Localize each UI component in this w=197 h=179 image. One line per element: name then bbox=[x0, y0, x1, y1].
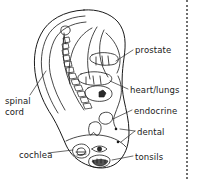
triangular-fossa bbox=[88, 27, 97, 79]
label-dental: dental bbox=[137, 127, 165, 137]
tragus-contour bbox=[114, 76, 122, 128]
dental-dot-upper bbox=[115, 128, 118, 131]
concha-bowl bbox=[85, 86, 112, 102]
tonsils-mouth-marker bbox=[89, 155, 110, 168]
prostate-zone-divider bbox=[96, 56, 109, 65]
dental-dot-lower bbox=[117, 141, 120, 144]
label-spinal-cord-line2: cord bbox=[5, 107, 24, 117]
leader-line-dental bbox=[120, 129, 135, 142]
heart-lungs-region-shape bbox=[78, 72, 112, 86]
label-tonsils: tonsils bbox=[135, 152, 163, 162]
helix-inner-rim bbox=[41, 16, 85, 113]
ear-reflexology-diagram: spinal cord cochlea prostate heart/lungs… bbox=[0, 0, 197, 179]
heart-marker bbox=[99, 90, 106, 97]
label-endocrine: endocrine bbox=[134, 106, 177, 116]
label-prostate: prostate bbox=[135, 45, 171, 55]
right-dotted-border bbox=[186, 0, 188, 179]
label-heart-lungs: heart/lungs bbox=[130, 85, 180, 95]
cochlea-marker bbox=[73, 144, 90, 158]
endocrine-region-shape bbox=[99, 112, 113, 124]
dental-tooth-marker bbox=[89, 122, 102, 136]
leader-line-spinal-cord bbox=[30, 71, 46, 95]
label-spinal-cord-line1: spinal bbox=[5, 96, 31, 106]
antihelix-superior-crus bbox=[69, 28, 92, 84]
eye-marker bbox=[92, 146, 107, 152]
prostate-region-shape bbox=[90, 53, 118, 66]
earlobe-boundary bbox=[66, 135, 126, 147]
leader-line-heart-lungs bbox=[110, 81, 128, 89]
label-cochlea: cochlea bbox=[19, 150, 52, 160]
label-spinal-cord: spinal cord bbox=[5, 96, 31, 118]
antihelix-ridge bbox=[100, 30, 108, 77]
heart-lungs-detail bbox=[86, 76, 101, 84]
